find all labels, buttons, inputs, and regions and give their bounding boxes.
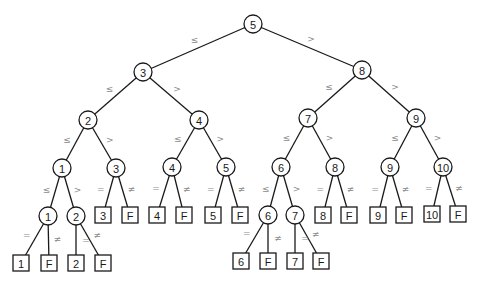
tree-edge (362, 70, 416, 118)
comparison-node: 5 (244, 15, 262, 33)
tree-edge (143, 72, 199, 120)
leaf-node: 7 (287, 253, 303, 269)
edge-label: ≤ (283, 133, 291, 143)
tree-edge (88, 72, 143, 120)
tree-edge (143, 24, 253, 72)
leaf-node: F (396, 207, 412, 223)
comparison-node: 1 (39, 207, 57, 225)
decision-tree-diagram: ≤>≤>≤>≤>≤>≤>≤>≤>=≠=≠=≠≤>=≠=≠=≠=≠=≠=≠=≠ 5… (0, 0, 479, 288)
edge-label: > (326, 133, 334, 143)
edge-label: ≠ (94, 230, 102, 240)
tree-edge (308, 70, 362, 118)
node-label: 3 (113, 163, 119, 175)
leaf-node: 9 (370, 207, 386, 223)
node-label: 9 (375, 210, 381, 222)
comparison-node: 3 (134, 63, 152, 81)
node-label: 9 (387, 162, 393, 174)
node-label: 10 (437, 162, 449, 174)
node-label: F (127, 210, 134, 222)
edge-label: ≠ (128, 184, 136, 194)
comparison-node: 4 (163, 158, 181, 176)
node-label: 6 (278, 162, 284, 174)
edges-layer (21, 24, 458, 263)
node-label: 8 (320, 210, 326, 222)
node-label: 8 (332, 162, 338, 174)
edge-label: > (173, 84, 181, 94)
leaf-node: F (450, 206, 466, 222)
edge-label: ≤ (325, 82, 333, 92)
node-label: F (237, 210, 244, 222)
edge-label: > (391, 82, 399, 92)
edge-label: = (425, 183, 433, 193)
edge-label: > (217, 134, 225, 144)
edge-label: = (23, 230, 31, 240)
comparison-node: 8 (326, 158, 344, 176)
node-label: F (100, 258, 107, 270)
comparison-node: 3 (107, 159, 125, 177)
comparison-node: 9 (407, 109, 425, 127)
edge-label: ≠ (274, 233, 282, 243)
leaf-node: F (260, 253, 276, 269)
leaf-node: 3 (95, 207, 111, 223)
edge-label: = (152, 183, 160, 193)
node-label: 5 (250, 19, 256, 31)
node-label: F (346, 210, 353, 222)
edge-label: > (293, 184, 301, 194)
leaf-node: F (176, 207, 192, 223)
node-label: 1 (59, 163, 65, 175)
leaf-node: 1 (13, 255, 29, 271)
leaf-node: F (313, 253, 329, 269)
node-label: F (455, 209, 462, 221)
node-label: 6 (238, 256, 244, 268)
comparison-node: 5 (217, 158, 235, 176)
leaf-node: 5 (205, 207, 221, 223)
node-label: 1 (45, 211, 51, 223)
node-label: 2 (85, 115, 91, 127)
edge-label: = (97, 184, 105, 194)
edge-label: = (301, 233, 309, 243)
edge-label: ≤ (43, 185, 51, 195)
edge-label: ≤ (106, 84, 114, 94)
node-label: 6 (265, 210, 271, 222)
node-label: 5 (223, 162, 229, 174)
node-label: 5 (210, 210, 216, 222)
leaf-node: 6 (233, 253, 249, 269)
node-label: 7 (292, 256, 298, 268)
node-label: F (265, 256, 272, 268)
edge-label: ≠ (183, 184, 191, 194)
node-label: 2 (73, 258, 79, 270)
leaf-node: F (95, 255, 111, 271)
edge-label: > (307, 34, 315, 44)
node-label: 7 (305, 113, 311, 125)
edge-label: > (106, 135, 114, 145)
comparison-node: 10 (434, 158, 452, 176)
edge-label: = (372, 184, 380, 194)
edge-label: ≠ (312, 229, 320, 239)
node-label: 4 (154, 210, 160, 222)
edge-label: ≤ (174, 134, 182, 144)
node-label: 7 (292, 210, 298, 222)
edge-label: ≠ (402, 184, 410, 194)
edge-label: ≤ (391, 133, 399, 143)
edge-label: > (74, 185, 82, 195)
edge-label: ≠ (54, 234, 62, 244)
comparison-node: 8 (353, 61, 371, 79)
node-label: 4 (196, 115, 202, 127)
node-label: F (181, 210, 188, 222)
node-label: 2 (73, 211, 79, 223)
comparison-node: 6 (272, 158, 290, 176)
node-label: 10 (426, 209, 438, 221)
comparison-node: 1 (53, 159, 71, 177)
edge-label: ≠ (238, 184, 246, 194)
edge-label: = (317, 184, 325, 194)
leaf-node: 8 (315, 207, 331, 223)
node-label: 1 (18, 258, 24, 270)
leaf-node: F (41, 255, 57, 271)
node-label: F (318, 256, 325, 268)
node-label: 9 (413, 113, 419, 125)
leaf-node: F (232, 207, 248, 223)
edge-label: = (207, 184, 215, 194)
edge-label: ≠ (455, 183, 463, 193)
leaf-node: 2 (68, 255, 84, 271)
edge-label: > (434, 133, 442, 143)
